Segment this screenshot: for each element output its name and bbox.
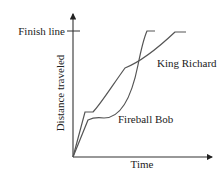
race-chart: Finish line Distance traveled Time King …: [0, 0, 220, 170]
y-axis-label: Distance traveled: [54, 54, 66, 131]
king-richard-label: King Richard: [157, 57, 217, 69]
fireball-bob-label: Fireball Bob: [118, 113, 174, 125]
fireball-bob-curve: [73, 31, 155, 157]
finish-line-label: Finish line: [18, 25, 65, 37]
x-axis-label: Time: [131, 158, 154, 170]
